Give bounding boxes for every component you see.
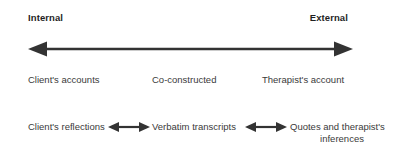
continuum-label-right: Therapist's account (262, 74, 344, 86)
continuum-diagram: Internal External Client's accounts Co-c… (0, 0, 397, 154)
main-axis-double-arrow-icon (28, 36, 353, 62)
example-label-left: Client's reflections (28, 121, 105, 133)
connector-double-arrow-icon-1 (108, 119, 150, 135)
continuum-label-center: Co-constructed (152, 74, 216, 86)
connector-double-arrow-icon-2 (245, 119, 287, 135)
example-label-right-line2: inferences (290, 133, 394, 145)
pole-label-external: External (296, 12, 348, 24)
continuum-label-left: Client's accounts (28, 74, 100, 86)
example-label-center: Verbatim transcripts (152, 121, 236, 133)
example-label-right: Quotes and therapist'sinferences (290, 121, 394, 145)
example-label-right-line1: Quotes and therapist's (290, 121, 385, 132)
pole-label-internal: Internal (28, 12, 63, 24)
